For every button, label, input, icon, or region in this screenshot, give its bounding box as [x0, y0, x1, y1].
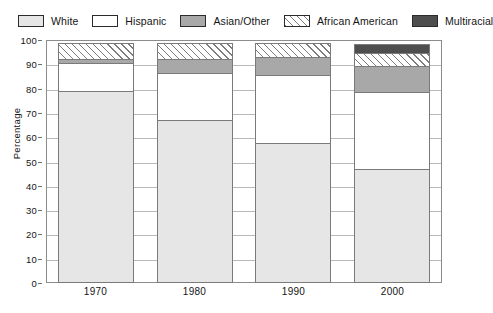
legend-swatch-hispanic-icon	[92, 15, 118, 27]
x-axis-tick-label: 1980	[157, 286, 233, 304]
y-axis-tick-mark	[38, 64, 42, 65]
bar-segment-white-1970	[58, 91, 134, 283]
y-axis-tick-mark	[38, 40, 42, 41]
bar-1990	[255, 41, 331, 282]
y-axis-tick-label: 50	[26, 156, 37, 167]
bar-segment-asian-other-2000	[354, 66, 430, 93]
legend-swatch-asian-other-icon	[180, 15, 206, 27]
bar-segment-hispanic-1970	[58, 63, 134, 92]
bar-group	[47, 41, 441, 282]
bar-segment-white-1990	[255, 143, 331, 283]
legend-label-multiracial: Multiracial	[445, 15, 493, 27]
y-axis-tick-mark	[38, 259, 42, 260]
y-axis-tick-label: 60	[26, 132, 37, 143]
y-axis-tick-mark	[38, 210, 42, 211]
y-axis-tick-mark	[38, 162, 42, 163]
bar-1970	[58, 41, 134, 282]
bar-segment-african-american-1970	[58, 43, 134, 60]
y-axis-tick-mark	[38, 89, 42, 90]
y-axis-title: Percentage	[11, 89, 22, 179]
y-axis-tick-label: 80	[26, 83, 37, 94]
bar-segment-white-2000	[354, 169, 430, 283]
chart-legend: White Hispanic Asian/Other African Ameri…	[18, 12, 442, 30]
y-axis-tick-label: 10	[26, 253, 37, 264]
x-axis-tick-label: 2000	[355, 286, 431, 304]
y-axis-tick-label: 70	[26, 107, 37, 118]
bar-segment-african-american-1990	[255, 43, 331, 58]
legend-item-hispanic: Hispanic	[92, 15, 166, 27]
legend-item-african-american: African American	[284, 15, 398, 27]
bar-1980	[157, 41, 233, 282]
legend-item-asian-other: Asian/Other	[180, 15, 270, 27]
y-axis-tick-mark	[38, 186, 42, 187]
x-axis-tick-label: 1970	[58, 286, 134, 304]
bar-segment-white-1980	[157, 120, 233, 283]
bar-segment-asian-other-1980	[157, 59, 233, 74]
bar-segment-hispanic-1990	[255, 75, 331, 144]
y-axis-tick-mark	[38, 234, 42, 235]
x-axis: 1970198019902000	[46, 286, 442, 304]
legend-swatch-white-icon	[18, 15, 44, 27]
legend-label-asian-other: Asian/Other	[213, 15, 270, 27]
bar-segment-hispanic-1980	[157, 73, 233, 122]
bar-segment-african-american-1980	[157, 43, 233, 60]
x-axis-tick-label: 1990	[256, 286, 332, 304]
plot-area	[46, 40, 442, 283]
legend-swatch-multiracial-icon	[412, 15, 438, 27]
y-axis-tick-label: 100	[21, 35, 37, 46]
y-axis-tick-label: 20	[26, 229, 37, 240]
y-axis-tick-mark	[38, 283, 42, 284]
y-axis-tick-label: 90	[26, 59, 37, 70]
bar-segment-hispanic-2000	[354, 92, 430, 170]
y-axis-tick-label: 0	[32, 278, 37, 289]
bar-2000	[354, 41, 430, 282]
legend-swatch-african-american-icon	[284, 15, 310, 27]
legend-label-african-american: African American	[317, 15, 398, 27]
legend-label-white: White	[51, 15, 78, 27]
y-axis-tick-label: 30	[26, 205, 37, 216]
y-axis-tick-mark	[38, 113, 42, 114]
bar-segment-asian-other-1990	[255, 57, 331, 76]
bar-segment-african-american-2000	[354, 53, 430, 68]
legend-item-white: White	[18, 15, 78, 27]
legend-item-multiracial: Multiracial	[412, 15, 493, 27]
legend-label-hispanic: Hispanic	[125, 15, 166, 27]
y-axis-tick-mark	[38, 137, 42, 138]
y-axis-tick-label: 40	[26, 180, 37, 191]
